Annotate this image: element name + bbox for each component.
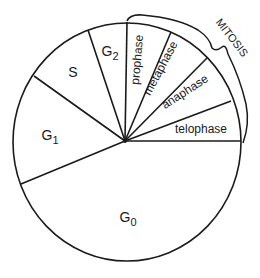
label-s: S [68,64,77,80]
center-dot [123,139,127,143]
label-anaphase: anaphase [159,71,211,112]
label-g0: G0 [119,209,136,228]
label-g2: G2 [101,43,118,62]
label-mitosis: MITOSIS [214,16,251,59]
label-telophase: telophase [175,122,227,136]
label-g1: G1 [41,127,58,146]
cell-cycle-diagram: G0 G1 S G2 prophase metaphase anaphase t… [0,0,260,278]
label-prophase: prophase [128,34,146,85]
